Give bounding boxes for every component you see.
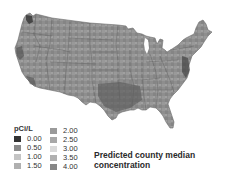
legend-swatch (14, 163, 21, 169)
legend-item-5: 2.50 (50, 136, 78, 144)
legend-swatch (50, 128, 57, 134)
legend-item-0: 0.00 (14, 135, 42, 143)
legend-label: 3.50 (63, 154, 78, 162)
legend-item-7: 3.50 (50, 154, 78, 162)
legend-label: 4.00 (63, 163, 78, 171)
caption-line-1: Predicted county median (94, 150, 224, 160)
legend-item-3: 1.50 (14, 162, 42, 170)
legend-item-2: 1.00 (14, 153, 42, 161)
legend-swatch (14, 145, 21, 151)
legend-item-6: 3.00 (50, 145, 78, 153)
legend: pCi/L 0.00 0.50 1.00 1.50 2.00 2.50 3.00… (11, 124, 81, 172)
legend-item-4: 2.00 (50, 127, 78, 135)
legend-swatch (14, 154, 21, 160)
legend-label: 0.50 (27, 144, 42, 152)
legend-swatch (14, 136, 21, 142)
legend-title: pCi/L (14, 124, 33, 133)
map-caption: Predicted county median concentration (94, 150, 224, 170)
legend-label: 1.50 (27, 162, 42, 170)
legend-label: 0.00 (27, 135, 42, 143)
legend-swatch (50, 155, 57, 161)
legend-item-8: 4.00 (50, 163, 78, 171)
legend-label: 2.00 (63, 127, 78, 135)
legend-label: 3.00 (63, 145, 78, 153)
legend-item-1: 0.50 (14, 144, 42, 152)
legend-label: 1.00 (27, 153, 42, 161)
legend-swatch (50, 164, 57, 170)
legend-swatch (50, 137, 57, 143)
caption-line-2: concentration (94, 160, 224, 170)
legend-label: 2.50 (63, 136, 78, 144)
legend-swatch (50, 146, 57, 152)
